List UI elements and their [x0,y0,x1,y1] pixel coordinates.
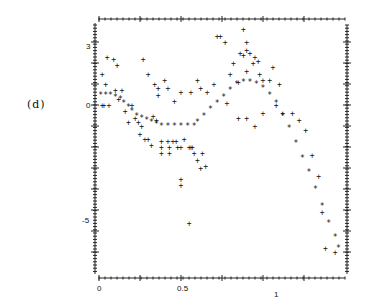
data-point-marker: + [149,141,154,150]
data-point-marker: + [205,88,210,97]
data-point-marker: + [267,76,272,85]
fitted-point-marker: * [165,122,170,131]
data-point-marker: + [179,88,184,97]
data-point-marker: + [188,88,193,97]
data-point-marker: + [103,80,108,89]
data-point-marker: + [141,55,146,64]
data-point-marker: + [236,114,241,123]
data-point-marker: + [115,61,120,70]
fitted-point-marker: * [241,78,246,87]
data-point-marker: + [323,244,328,253]
data-point-marker: + [270,63,275,72]
data-point-marker: + [256,57,261,66]
data-point-marker: + [277,80,282,89]
fitted-point-marker: * [261,84,266,93]
data-point-marker: + [303,126,308,135]
data-point-marker: + [156,91,161,100]
data-point-marker: + [159,149,164,158]
data-point-marker: + [146,70,151,79]
data-point-marker: + [223,38,228,47]
data-point-marker: + [241,25,246,34]
fitted-point-marker: * [247,78,252,87]
fitted-point-marker: * [307,168,312,177]
fitted-point-marker: * [293,139,298,148]
data-point-marker: + [261,109,266,118]
fitted-point-marker: * [300,154,305,163]
fitted-point-marker: * [267,91,272,100]
fitted-point-marker: * [274,99,279,108]
fitted-point-marker: * [234,80,239,89]
data-point-marker: + [165,84,170,93]
fitted-point-marker: * [215,99,220,108]
fitted-point-marker: * [313,185,318,194]
fitted-point-marker: * [280,112,285,121]
fitted-point-marker: * [195,118,200,127]
data-point-marker: + [198,84,203,93]
fitted-point-marker: * [320,202,325,211]
fitted-point-marker: * [202,112,207,121]
data-point-marker: + [211,80,216,89]
data-point-marker: + [106,101,111,110]
data-point-marker: + [172,97,177,106]
data-point-marker: + [228,70,233,79]
fitted-point-marker: * [228,86,233,95]
fitted-point-marker: * [221,93,226,102]
data-point-marker: + [105,53,110,62]
data-point-marker: + [203,162,208,171]
fitted-point-marker: * [159,122,164,131]
data-point-marker: + [175,143,180,152]
data-point-marker: + [167,149,172,158]
fitted-point-marker: * [326,219,331,228]
data-point-marker: + [290,109,295,118]
data-point-marker: + [126,118,131,127]
fitted-point-marker: * [333,233,338,242]
data-point-marker: + [100,70,105,79]
data-point-marker: + [231,59,236,68]
data-point-marker: + [297,116,302,125]
data-point-marker: + [316,172,321,181]
fitted-point-marker: * [287,124,292,133]
fitted-point-marker: * [172,122,177,131]
data-point-marker: + [200,149,205,158]
fitted-point-marker: * [254,80,259,89]
data-point-marker: + [179,181,184,190]
fitted-point-marker: * [336,244,341,253]
data-point-marker: + [310,151,315,160]
fitted-point-marker: * [208,105,213,114]
data-point-marker: + [244,67,249,76]
data-point-marker: + [187,219,192,228]
fitted-point-marker: * [179,122,184,131]
data-point-marker: + [252,122,257,131]
fitted-point-marker: * [185,122,190,131]
data-point-marker: + [244,114,249,123]
scatter-plot: ++++++++++++++++++++++++++++++++++++++++… [0,0,365,303]
